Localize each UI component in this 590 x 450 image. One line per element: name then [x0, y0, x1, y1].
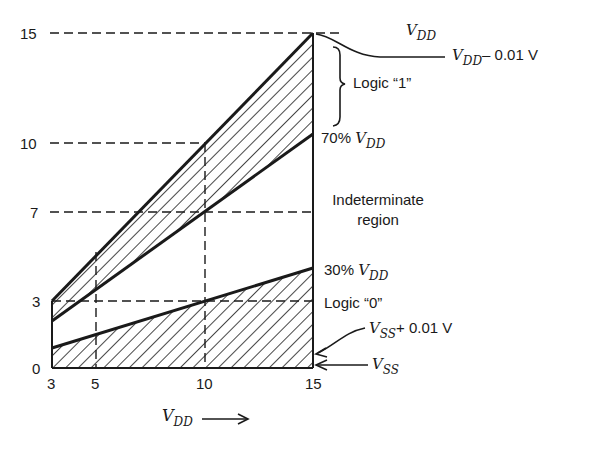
pct70-label: 70% VDD [321, 130, 385, 150]
x-tick-15: 15 [305, 376, 322, 391]
vdd-line [52, 33, 313, 301]
logic-1-brace [333, 47, 345, 126]
y-tick-0: 0 [32, 361, 40, 376]
indeterminate-label: Indeterminate region [322, 192, 434, 227]
y-tick-7: 7 [30, 205, 38, 220]
y-tick-10: 10 [20, 136, 37, 151]
y-tick-3: 3 [32, 294, 40, 309]
vss-plus-label: VSS+ 0.01 V [369, 320, 452, 340]
x-tick-3: 3 [47, 376, 55, 391]
logic-1-label: Logic “1” [353, 75, 411, 90]
x-tick-10: 10 [196, 376, 213, 391]
logic-0-label: Logic “0” [324, 295, 382, 310]
y-tick-15: 15 [20, 26, 37, 41]
x-tick-5: 5 [91, 376, 99, 391]
pct30-label: 30% VDD [324, 262, 388, 282]
vdd-label: VDD [406, 22, 436, 42]
vss-label: VSS [372, 356, 399, 376]
logic-levels-diagram [0, 0, 590, 450]
logic-1-region [52, 33, 313, 321]
xaxis-label: VDD [162, 408, 193, 428]
vdd-minus-label: VDD– 0.01 V [452, 47, 538, 67]
